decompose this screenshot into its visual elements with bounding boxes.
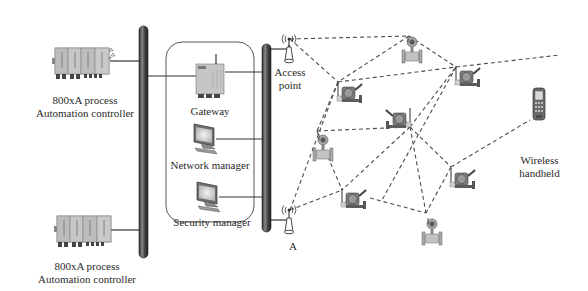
controller-bottom-label-line2: Automation controller (32, 273, 142, 286)
wireless-mesh-links (290, 36, 560, 213)
wireless-handheld-icon (533, 88, 545, 120)
security-manager-label: Security manager (167, 216, 257, 229)
controller-bottom-label-line1: 800xA process (32, 260, 142, 273)
controller-bottom-label: 800xA process Automation controller (32, 260, 142, 286)
transmitter-icon (386, 108, 411, 129)
transmitter-icon (337, 82, 362, 103)
controller-top-label: 800xA process Automation controller (30, 94, 140, 120)
access-point-top-label-line2: point (270, 79, 310, 92)
gateway-label: Gateway (180, 105, 240, 118)
security-manager-icon (197, 182, 220, 212)
network-manager-icon (194, 124, 217, 154)
controller-bottom-icon (54, 216, 111, 247)
controller-top-label-line1: 800xA process (30, 94, 140, 107)
wireless-handheld-label: Wireless handheld (512, 154, 567, 180)
wireless-handheld-label-line1: Wireless (512, 154, 567, 167)
access-point-top-label: Access point (270, 66, 310, 92)
flowmeter-icon (313, 134, 333, 161)
controller-top-icon (52, 48, 115, 79)
wireless-handheld-label-line2: handheld (512, 167, 567, 180)
flowmeter-icon (422, 218, 442, 245)
access-point-bottom-label: A (258, 240, 328, 253)
transmitter-icon (455, 66, 480, 87)
gateway-icon (196, 54, 224, 98)
access-point-top-label-line1: Access (270, 66, 310, 79)
flowmeter-icon (402, 36, 422, 63)
backbone-bus-left (139, 26, 148, 258)
network-manager-label: Network manager (165, 159, 255, 172)
transmitter-icon (341, 188, 366, 209)
controller-top-label-line2: Automation controller (30, 107, 140, 120)
transmitter-icon (450, 168, 475, 189)
